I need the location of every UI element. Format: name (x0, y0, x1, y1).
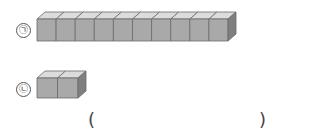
row-a-cube-front (94, 19, 113, 41)
row-b-cube-front (58, 78, 79, 98)
row-a-cube-front (190, 19, 209, 41)
row-a-cube-front (133, 19, 152, 41)
row-a-cube-front (75, 19, 94, 41)
answer-blank[interactable] (100, 110, 260, 128)
row-a-cube-front (37, 19, 56, 41)
row-a-cube-front (56, 19, 75, 41)
answer-open-paren: ( (88, 109, 95, 130)
answer-close-paren: ) (259, 109, 266, 130)
row-a-cube-front (209, 19, 228, 41)
row-a-cube-front (171, 19, 190, 41)
row-a-cube-front (113, 19, 132, 41)
row-b-cube-front (37, 78, 58, 98)
row-a-cube-front (152, 19, 171, 41)
